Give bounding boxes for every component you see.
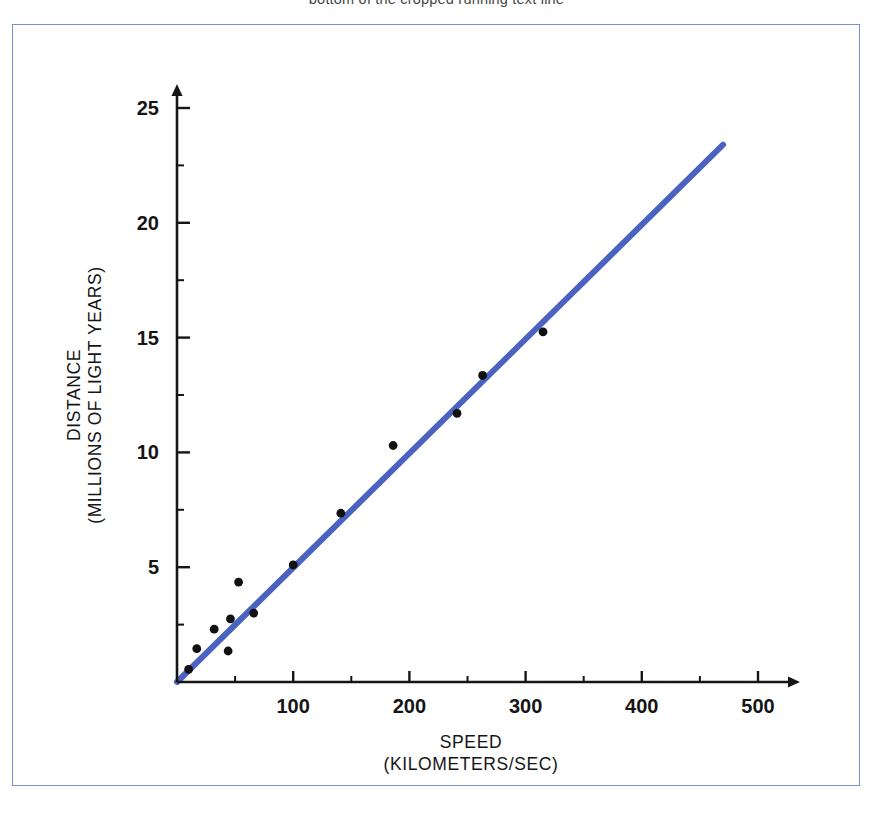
y-tick-label: 10 — [137, 441, 159, 463]
fit-line — [177, 145, 723, 682]
y-tick-label: 20 — [137, 212, 159, 234]
data-point — [184, 665, 193, 674]
x-tick-label: 200 — [393, 695, 426, 717]
y-tick-label: 15 — [137, 327, 159, 349]
scatter-chart-figure: 100200300400500 510152025 SPEED (KILOMET… — [0, 0, 873, 814]
data-point — [389, 441, 398, 450]
x-tick-label: 300 — [509, 695, 542, 717]
y-tick-label: 5 — [148, 556, 159, 578]
data-point — [224, 647, 233, 656]
x-tick-label: 400 — [625, 695, 658, 717]
data-point — [336, 509, 345, 518]
x-tick-label: 500 — [741, 695, 774, 717]
data-point — [192, 644, 201, 653]
x-tick-label: 100 — [277, 695, 310, 717]
data-point — [249, 609, 258, 618]
y-axis-tick-labels: 510152025 — [137, 97, 159, 578]
data-point — [234, 578, 243, 587]
x-axis-title-main: SPEED — [440, 732, 502, 752]
x-axis-tick-labels: 100200300400500 — [277, 695, 775, 717]
data-point — [226, 614, 235, 623]
data-point — [478, 371, 487, 380]
data-point — [453, 409, 462, 418]
data-point — [289, 561, 298, 570]
y-axis-title-units: (MILLIONS OF LIGHT YEARS) — [85, 266, 105, 523]
y-axis-title-main: DISTANCE — [64, 349, 84, 441]
y-axis-title: DISTANCE (MILLIONS OF LIGHT YEARS) — [64, 266, 105, 523]
chart-canvas: 100200300400500 510152025 SPEED (KILOMET… — [0, 0, 873, 814]
fit-line-segment — [177, 145, 723, 682]
data-point — [210, 625, 219, 634]
x-axis-title-units: (KILOMETERS/SEC) — [384, 754, 559, 774]
x-axis-title: SPEED (KILOMETERS/SEC) — [384, 732, 559, 774]
y-tick-label: 25 — [137, 97, 159, 119]
data-point — [539, 327, 548, 336]
